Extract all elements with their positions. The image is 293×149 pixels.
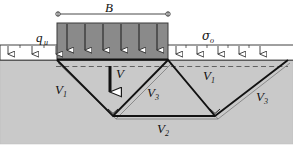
label-v3-right-subscript: 3 — [263, 97, 268, 106]
soil-mass — [0, 60, 293, 144]
label-v2-subscript: 2 — [165, 129, 169, 138]
label-sigma-o-subscript: o — [210, 36, 214, 45]
label-b: B — [105, 0, 113, 15]
diagram-canvas: B q u — [0, 0, 293, 149]
label-qu-group: q u — [36, 30, 48, 47]
label-qu-subscript: u — [44, 38, 48, 47]
surcharge-left — [0, 45, 57, 60]
label-v1-right-subscript: 1 — [211, 76, 215, 85]
bearing-capacity-diagram: B q u — [0, 0, 293, 149]
label-qu: q — [36, 30, 43, 45]
label-v1-left-subscript: 1 — [63, 90, 67, 99]
footing-block — [57, 23, 168, 60]
surcharge-right — [168, 45, 293, 54]
dimension-line-b — [56, 12, 170, 16]
label-sigma-o-group: σ o — [202, 29, 214, 45]
label-v3-center-subscript: 3 — [154, 93, 159, 102]
